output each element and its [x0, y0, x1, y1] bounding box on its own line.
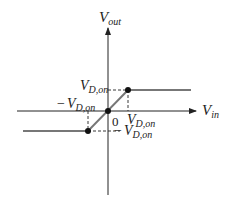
- pos-vout-label: VD,on: [80, 78, 108, 95]
- neg-vin-label: −VD,on: [57, 96, 95, 113]
- knee-point-upper: [125, 87, 131, 93]
- y-axis-label: Vout: [99, 9, 121, 27]
- transfer-characteristic-diagram: Vout Vin 0 VD,on −VD,on VD,on −VD,on: [0, 0, 229, 205]
- origin-point: [105, 108, 111, 114]
- x-axis-label: Vin: [202, 102, 219, 120]
- knee-point-lower: [85, 128, 91, 134]
